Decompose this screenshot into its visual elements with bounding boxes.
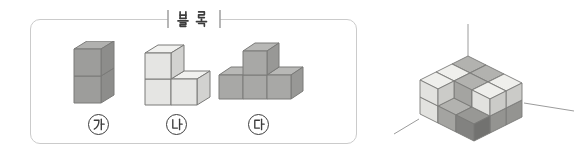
hangul-char <box>94 119 104 129</box>
oblique-cube <box>243 43 279 75</box>
blocks-panel: 블록 가 나 다 <box>30 19 357 144</box>
hangul-char <box>172 119 181 129</box>
block-da-label-badge: 다 <box>248 114 269 135</box>
hangul-char <box>196 12 206 26</box>
block-ga-drawing <box>71 41 127 111</box>
hangul-char <box>254 119 263 129</box>
oblique-cube <box>171 71 210 105</box>
corner-axis-line <box>394 119 419 134</box>
block-da-label-glyph <box>252 118 265 131</box>
block-na-drawing <box>141 41 215 111</box>
block-ga-label-badge: 가 <box>88 114 109 135</box>
hangul-char <box>177 12 187 26</box>
block-na-label-badge: 나 <box>166 114 187 135</box>
block-puzzle-diagram: 블록 가 나 다 <box>0 0 578 160</box>
oblique-cube <box>74 41 114 76</box>
target-structure-drawing <box>378 14 578 154</box>
corner-axis-line <box>524 103 574 111</box>
panel-title-text <box>175 10 212 28</box>
oblique-cube <box>145 45 184 79</box>
block-na-label-glyph <box>170 118 183 131</box>
panel-title: 블록 <box>167 10 220 28</box>
block-da-drawing <box>215 42 307 106</box>
block-ga-label-glyph <box>92 118 105 131</box>
